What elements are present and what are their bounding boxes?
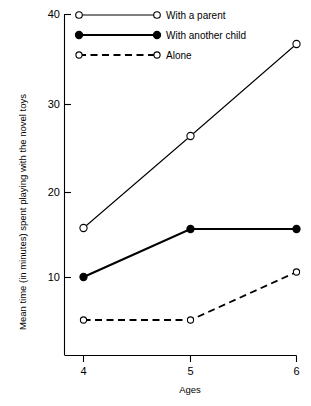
line-chart: 40 30 20 10 4 5 6 Ages Mean time (in min…	[0, 0, 311, 406]
y-tick-label-10: 10	[48, 271, 60, 283]
x-tick-label-5: 5	[187, 365, 193, 377]
x-axis-title: Ages	[179, 384, 201, 395]
legend-swatch-marker-right-with-another-child	[153, 31, 160, 38]
series-alone	[80, 269, 299, 323]
x-tick-marks	[84, 356, 297, 363]
legend-swatch-marker-left-with-a-parent	[76, 12, 83, 19]
y-tick-label-30: 30	[48, 98, 60, 110]
series-alone-point-age-5	[187, 317, 193, 323]
series-alone-point-age-4	[80, 317, 86, 323]
legend-swatch-marker-right-with-a-parent	[154, 12, 161, 19]
legend-label-with-a-parent: With a parent	[166, 10, 226, 21]
series-with-a-parent-point-age-6	[293, 40, 300, 47]
series-with-a-parent-point-age-4	[80, 224, 87, 231]
y-tick-marks	[65, 15, 72, 278]
x-tick-label-4: 4	[80, 365, 86, 377]
x-tick-label-6: 6	[293, 365, 299, 377]
legend-label-with-another-child: With another child	[166, 30, 246, 41]
legend-item-alone: Alone	[76, 50, 192, 61]
legend-item-with-a-parent: With a parent	[76, 10, 226, 21]
series-alone-line	[84, 272, 297, 320]
series-with-another-child-point-age-4	[80, 273, 87, 280]
series-with-a-parent-point-age-5	[187, 132, 194, 139]
series-alone-point-age-6	[293, 269, 299, 275]
axis-group	[65, 14, 297, 356]
legend-label-alone: Alone	[166, 50, 192, 61]
chart-legend: With a parent With another child Alone	[75, 10, 246, 61]
series-with-another-child	[80, 225, 300, 280]
chart-canvas: 40 30 20 10 4 5 6 Ages Mean time (in min…	[0, 0, 311, 406]
series-with-a-parent	[80, 40, 300, 231]
legend-swatch-marker-left-alone	[76, 52, 82, 58]
y-tick-label-40: 40	[48, 8, 60, 20]
legend-item-with-another-child: With another child	[75, 30, 246, 41]
legend-swatch-marker-left-with-another-child	[75, 31, 82, 38]
y-axis-title: Mean time (in minutes) spent playing wit…	[17, 94, 28, 330]
series-with-another-child-point-age-5	[187, 225, 194, 232]
y-tick-label-20: 20	[48, 186, 60, 198]
series-with-another-child-point-age-6	[293, 225, 300, 232]
legend-swatch-marker-right-alone	[154, 52, 160, 58]
series-with-another-child-line	[84, 229, 297, 277]
